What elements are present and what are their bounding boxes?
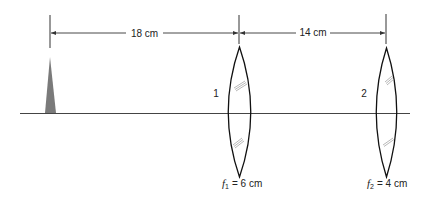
- two-lens-diagram: 18 cm 14 cm 1 2: [0, 0, 425, 200]
- focal-label-lens-1: f1= 6 cm: [222, 177, 262, 190]
- dimension-label-14cm: 14 cm: [299, 27, 326, 38]
- svg-text:f1= 6 cm: f1= 6 cm: [222, 177, 262, 190]
- dimension-18cm: 18 cm: [51, 28, 238, 39]
- lens-1-number: 1: [213, 88, 219, 99]
- glass-hatch-icon: [233, 81, 247, 148]
- dimension-label-18cm: 18 cm: [131, 28, 158, 39]
- lens-2: 2: [361, 48, 397, 177]
- svg-text:f2= 4 cm: f2= 4 cm: [367, 177, 407, 190]
- lens-1: 1: [213, 47, 251, 177]
- glass-hatch-icon: [383, 76, 394, 147]
- lens-2-number: 2: [361, 88, 367, 99]
- dimension-14cm: 14 cm: [240, 27, 385, 38]
- object-triangle: [45, 57, 56, 113]
- focal-label-lens-2: f2= 4 cm: [367, 177, 407, 190]
